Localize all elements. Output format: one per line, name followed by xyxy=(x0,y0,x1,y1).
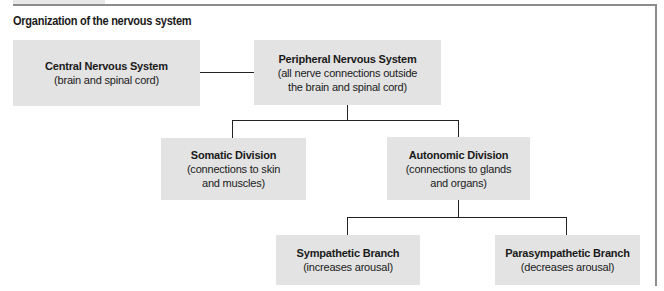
edge-pns-stem xyxy=(347,105,348,121)
node-name: Parasympathetic Branch xyxy=(505,246,630,260)
edge-pns-autonomic xyxy=(458,120,459,138)
node-name: Peripheral Nervous System xyxy=(278,52,416,66)
node-desc: (connections to glands xyxy=(406,162,512,176)
edge-autonomic-branch-bar xyxy=(347,217,567,218)
node-desc: and muscles) xyxy=(202,176,265,190)
frame-right-border xyxy=(655,4,657,286)
node-desc: (all nerve connections outside xyxy=(278,66,418,80)
node-parasympathetic-branch: Parasympathetic Branch (decreases arousa… xyxy=(495,235,640,285)
edge-autonomic-parasympathetic xyxy=(566,217,567,235)
node-peripheral-nervous-system: Peripheral Nervous System (all nerve con… xyxy=(254,40,441,105)
node-desc: (connections to skin xyxy=(187,162,280,176)
node-name: Autonomic Division xyxy=(409,148,509,162)
node-desc: the brain and spinal cord) xyxy=(288,80,407,94)
frame-top-border xyxy=(13,4,657,6)
diagram-title: Organization of the nervous system xyxy=(13,14,191,28)
edge-autonomic-sympathetic xyxy=(347,217,348,235)
node-desc: and organs) xyxy=(430,176,487,190)
node-name: Somatic Division xyxy=(191,148,276,162)
node-desc: (increases arousal) xyxy=(303,260,393,274)
edge-pns-branch-bar xyxy=(232,120,459,121)
node-somatic-division: Somatic Division (connections to skin an… xyxy=(161,138,306,200)
node-autonomic-division: Autonomic Division (connections to gland… xyxy=(387,137,530,200)
edge-cns-pns xyxy=(200,72,254,73)
node-name: Central Nervous System xyxy=(45,59,168,73)
node-desc: (decreases arousal) xyxy=(521,260,614,274)
node-sympathetic-branch: Sympathetic Branch (increases arousal) xyxy=(276,235,420,285)
edge-autonomic-stem xyxy=(458,200,459,218)
node-desc: (brain and spinal cord) xyxy=(54,73,159,87)
node-central-nervous-system: Central Nervous System (brain and spinal… xyxy=(13,40,200,106)
node-name: Sympathetic Branch xyxy=(297,246,400,260)
edge-pns-somatic xyxy=(232,120,233,138)
